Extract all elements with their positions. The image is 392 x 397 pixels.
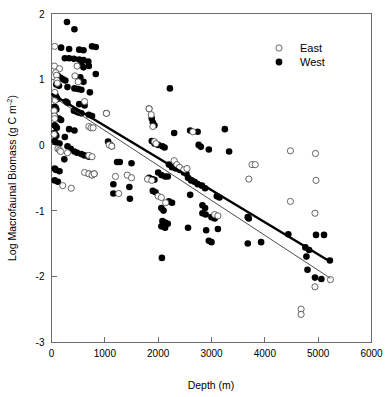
data-point-east — [74, 63, 80, 69]
data-point-west — [159, 255, 166, 262]
data-point-west — [258, 239, 265, 246]
y-tick-label-2: 2 — [39, 9, 45, 20]
data-point-west — [321, 232, 328, 239]
data-point-east — [89, 154, 95, 160]
data-point-west — [66, 46, 73, 53]
data-point-west — [58, 117, 65, 124]
data-point-west — [80, 47, 87, 54]
data-point-west — [62, 77, 69, 84]
data-point-east — [116, 190, 122, 196]
data-point-west — [161, 144, 168, 151]
x-tick-label-1000: 1000 — [94, 348, 117, 359]
data-point-west — [187, 192, 194, 199]
data-point-west — [208, 239, 215, 246]
data-point-east — [57, 148, 63, 154]
data-point-west — [203, 227, 210, 234]
data-point-west — [313, 232, 320, 239]
data-point-west — [304, 266, 311, 273]
data-point-west — [78, 86, 85, 93]
data-point-east — [163, 200, 169, 206]
data-point-east — [68, 185, 74, 191]
data-point-east — [149, 177, 155, 183]
data-point-west — [185, 224, 192, 231]
data-point-west — [71, 127, 78, 134]
x-tick-label-0: 0 — [49, 348, 55, 359]
data-point-west — [87, 89, 94, 96]
data-point-west — [226, 148, 233, 155]
data-point-west — [71, 26, 78, 33]
data-point-west — [164, 173, 171, 180]
data-point-west — [126, 184, 133, 191]
data-point-east — [146, 106, 152, 112]
data-point-west — [303, 253, 310, 260]
data-point-east — [51, 131, 57, 137]
data-point-west — [61, 156, 68, 163]
y-axis-title-close: ) — [6, 95, 18, 99]
data-point-east — [287, 148, 293, 154]
data-point-west — [58, 44, 65, 51]
plot-canvas: 0100020003000400050006000 210-1-2-3 East… — [0, 0, 392, 397]
legend-label-west: West — [300, 56, 325, 68]
data-point-west — [64, 19, 71, 26]
data-point-east — [52, 116, 58, 122]
y-tick-label-1: 1 — [39, 74, 45, 85]
data-point-west — [169, 199, 176, 206]
data-point-west — [171, 130, 178, 137]
data-point-west — [206, 146, 213, 153]
data-point-east — [184, 165, 190, 171]
x-tick-label-2000: 2000 — [147, 348, 170, 359]
data-point-west — [127, 195, 134, 202]
data-point-west — [202, 211, 209, 218]
legend-marker-west — [276, 59, 283, 66]
data-point-west — [246, 215, 253, 222]
data-point-west — [244, 240, 251, 247]
data-point-east — [312, 284, 318, 290]
data-point-east — [312, 150, 318, 156]
data-point-east — [190, 129, 196, 135]
y-axis-title-text: Log Macrofaunal Biomass (g C m-2) — [5, 95, 18, 261]
data-point-west — [56, 168, 63, 175]
data-point-east — [215, 213, 221, 219]
data-point-west — [92, 44, 99, 51]
y-tick-label--2: -2 — [36, 271, 45, 282]
x-tick-label-4000: 4000 — [254, 348, 277, 359]
y-axis-title-exponent: -2 — [5, 99, 14, 106]
x-tick-label-3000: 3000 — [200, 348, 223, 359]
data-point-west — [160, 207, 167, 214]
data-point-east — [128, 175, 134, 181]
data-point-west — [167, 85, 174, 92]
y-tick-label-0: 0 — [39, 140, 45, 151]
data-point-west — [162, 224, 169, 231]
data-point-west — [198, 144, 205, 151]
data-point-east — [112, 173, 118, 179]
y-tick-label--1: -1 — [36, 206, 45, 217]
data-point-east — [54, 80, 60, 86]
data-point-west — [92, 71, 99, 78]
data-point-west — [128, 160, 135, 167]
x-tick-label-6000: 6000 — [360, 348, 383, 359]
scatter-plot-figure: 0100020003000400050006000 210-1-2-3 East… — [0, 0, 392, 397]
data-point-east — [158, 194, 164, 200]
data-point-east — [150, 123, 156, 129]
data-point-east — [327, 276, 333, 282]
data-point-east — [298, 311, 304, 317]
data-point-west — [64, 84, 71, 91]
data-point-east — [52, 43, 58, 49]
data-point-east — [60, 183, 66, 189]
data-point-west — [318, 276, 325, 283]
data-point-west — [62, 134, 69, 141]
y-axis-title: Log Macrofaunal Biomass (g C m-2) — [5, 95, 18, 261]
legend-marker-east — [276, 45, 282, 51]
data-point-west — [86, 63, 93, 70]
y-tick-label--3: -3 — [36, 337, 45, 348]
data-point-east — [90, 125, 96, 131]
x-tick-label-5000: 5000 — [307, 348, 330, 359]
data-point-east — [287, 198, 293, 204]
data-point-east — [148, 112, 154, 118]
legend-label-east: East — [300, 42, 322, 54]
y-axis-title-base: Log Macrofaunal Biomass (g C m — [6, 105, 18, 261]
data-point-east — [64, 150, 70, 156]
data-point-east — [91, 171, 97, 177]
data-point-east — [72, 73, 78, 79]
data-point-east — [246, 176, 252, 182]
